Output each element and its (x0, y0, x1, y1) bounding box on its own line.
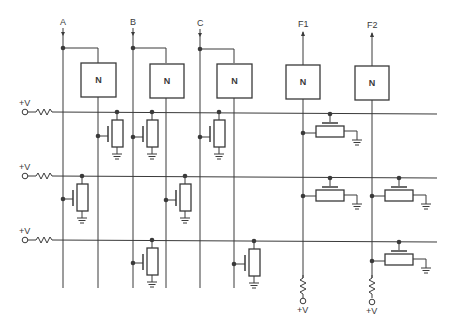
transistor-r2-b-not (164, 174, 191, 223)
arrow-down-icon (198, 33, 202, 37)
transistor-f2-r2 (370, 176, 431, 209)
transistor-r2-a (61, 174, 88, 223)
input-label-a: A (60, 17, 66, 27)
transistor-f1-r1 (301, 112, 362, 145)
inverter-1: N (81, 63, 116, 97)
output-column-f1: F1 (298, 19, 309, 278)
output-label-f1: F1 (298, 19, 309, 29)
svg-text:+V: +V (19, 226, 30, 236)
circuit-diagram: A B C F1 F2 N N (0, 0, 457, 325)
svg-text:N: N (164, 76, 171, 86)
input-label-c: C (197, 18, 204, 28)
input-label-b: B (130, 17, 136, 27)
svg-text:+V: +V (19, 98, 30, 108)
arrow-down-icon (61, 32, 65, 36)
svg-text:+V: +V (297, 305, 308, 315)
inverter-2: N (150, 64, 184, 98)
input-column-a: A (60, 17, 98, 288)
svg-text:N: N (95, 75, 102, 85)
svg-text:N: N (300, 77, 307, 87)
row-3: +V (19, 226, 437, 243)
arrow-down-icon (131, 32, 135, 36)
pullup-f1: +V (297, 275, 308, 315)
inverter-4: N (286, 65, 320, 99)
inverter-5: N (355, 66, 389, 100)
svg-text:N: N (369, 78, 376, 88)
output-column-f2: F2 (367, 20, 378, 278)
input-column-c: C (197, 18, 234, 288)
transistor-r3-b (131, 238, 158, 287)
transistor-r1-b (131, 110, 158, 159)
svg-text:+V: +V (19, 162, 30, 172)
transistor-f2-r3 (370, 240, 431, 273)
transistor-r1-c (198, 110, 225, 159)
output-label-f2: F2 (367, 20, 378, 30)
transistor-r1-a-not (96, 110, 123, 159)
inverter-3: N (217, 64, 252, 98)
svg-text:+V: +V (366, 306, 377, 316)
transistor-f1-r2 (301, 176, 362, 209)
pullup-f2: +V (366, 275, 377, 316)
transistor-r3-c-not (232, 239, 260, 288)
svg-text:N: N (231, 76, 238, 86)
arrow-up-icon (301, 31, 305, 36)
arrow-up-icon (370, 32, 374, 37)
